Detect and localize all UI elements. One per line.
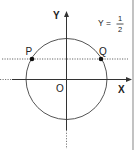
- point-p: [30, 57, 35, 62]
- point-p-label: P: [26, 46, 33, 57]
- y-axis-arrow-icon: [64, 11, 69, 17]
- equation-numerator: 1: [118, 14, 122, 23]
- unit-circle-diagram: P Q O X Y Y = 1 2: [0, 0, 137, 150]
- point-q: [99, 57, 104, 62]
- y-axis-label: Y: [53, 10, 60, 21]
- equation-denominator: 2: [118, 25, 122, 34]
- x-axis-arrow-icon: [126, 77, 132, 82]
- x-axis-label: X: [118, 84, 125, 95]
- origin-label: O: [56, 83, 64, 94]
- equation-lhs: Y =: [98, 18, 111, 28]
- point-q-label: Q: [99, 46, 107, 57]
